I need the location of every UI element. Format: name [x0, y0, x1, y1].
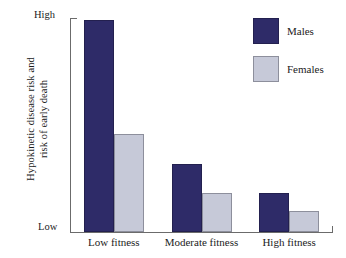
bar-males-low-fitness[interactable] [84, 20, 114, 232]
legend: Males Females [253, 18, 343, 94]
bar-females-moderate-fitness[interactable] [202, 193, 232, 232]
y-axis-title-line-1: Hypokinetic disease risk and [24, 57, 37, 181]
bar-chart-figure: Hypokinetic disease risk and risk of ear… [0, 0, 346, 258]
x-axis-label-moderate-fitness: Moderate fitness [158, 236, 246, 248]
y-axis-tick-high: High [34, 9, 55, 20]
legend-label-males: Males [287, 25, 314, 37]
y-axis-tick-mark-bottom [70, 232, 77, 233]
legend-item-females[interactable]: Females [253, 56, 343, 82]
x-axis-line [70, 232, 333, 233]
y-axis-tick-low: Low [38, 221, 57, 232]
legend-label-females: Females [287, 63, 324, 75]
bar-males-moderate-fitness[interactable] [172, 164, 202, 232]
y-axis-title: Hypokinetic disease risk and risk of ear… [14, 0, 60, 238]
bar-group [84, 18, 144, 232]
males-swatch-icon [253, 18, 279, 44]
y-axis-title-line-2: risk of early death [37, 57, 50, 181]
x-axis-label-low-fitness: Low fitness [70, 236, 158, 248]
females-swatch-icon [253, 56, 279, 82]
legend-item-males[interactable]: Males [253, 18, 343, 44]
bar-females-high-fitness[interactable] [289, 211, 319, 232]
bar-group [172, 18, 232, 232]
x-axis-label-high-fitness: High fitness [245, 236, 333, 248]
bar-males-high-fitness[interactable] [259, 193, 289, 232]
bar-females-low-fitness[interactable] [114, 134, 144, 232]
